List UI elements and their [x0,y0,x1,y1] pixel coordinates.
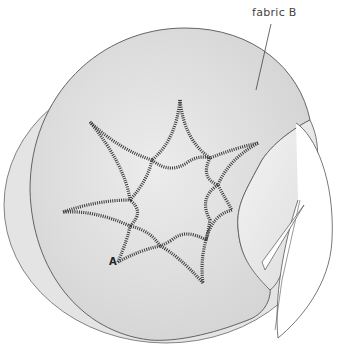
point-a-label: A [109,256,117,267]
fabric-diagram [0,0,342,349]
fabric-b-label: fabric B [252,6,297,19]
